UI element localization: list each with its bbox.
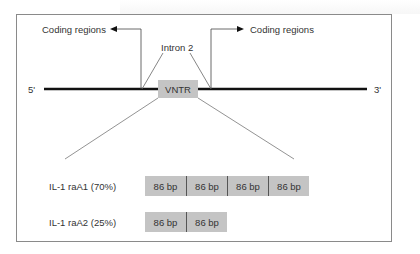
repeat-unit: 86 bp: [186, 212, 227, 232]
allele-a1-label: IL-1 raA1 (70%): [49, 182, 116, 192]
intron-label: Intron 2: [161, 43, 193, 53]
coding-left-connector: [116, 29, 141, 89]
arrow-left-icon: [110, 26, 117, 32]
repeat-unit: 86 bp: [227, 176, 268, 196]
repeat-unit: 86 bp: [186, 176, 227, 196]
allele-a1-repeats: 86 bp 86 bp 86 bp 86 bp: [145, 176, 309, 196]
repeat-unit: 86 bp: [268, 176, 309, 196]
five-prime-label: 5': [28, 85, 35, 95]
coding-regions-left-label: Coding regions: [42, 25, 106, 35]
vntr-box: VNTR: [158, 80, 198, 98]
vntr-label: VNTR: [165, 84, 191, 95]
repeat-unit: 86 bp: [145, 212, 186, 232]
allele-a2-repeats: 86 bp 86 bp: [145, 212, 227, 232]
arrow-right-icon: [237, 26, 244, 32]
coding-right-connector: [211, 29, 238, 89]
allele-a2-label: IL-1 raA2 (25%): [49, 218, 116, 228]
expansion-line-left: [65, 98, 158, 159]
expansion-line-right: [198, 98, 294, 159]
three-prime-label: 3': [374, 85, 381, 95]
repeat-unit: 86 bp: [145, 176, 186, 196]
coding-regions-right-label: Coding regions: [250, 25, 314, 35]
